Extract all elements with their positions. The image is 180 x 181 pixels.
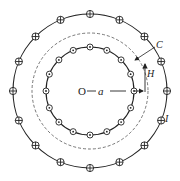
current-label: I [164, 113, 169, 124]
coax-diagram: O a H C I [0, 0, 180, 181]
radius-label: a [98, 85, 104, 97]
loop-c-pointer [135, 47, 155, 60]
loop-label: C [156, 39, 163, 50]
center-label: O [78, 85, 86, 97]
field-label: H [146, 68, 155, 79]
